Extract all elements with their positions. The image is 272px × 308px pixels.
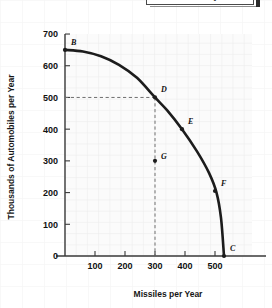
point-label: F: [220, 179, 227, 188]
x-tick-label: 100: [87, 261, 102, 271]
point-marker: [213, 189, 217, 193]
point-marker: [63, 48, 67, 52]
x-axis-title: Missiles per Year: [134, 289, 204, 299]
point-label: D: [160, 85, 167, 94]
x-tick-label: 400: [177, 261, 192, 271]
y-tick-label: 700: [43, 29, 58, 39]
y-tick-label: 400: [43, 125, 58, 135]
x-tick-label: 500: [207, 261, 222, 271]
x-tick-label: 300: [147, 261, 162, 271]
x-tick-label: 200: [117, 261, 132, 271]
top-banner-strip: Economy: [0, 0, 272, 9]
banner-corner-tab: [256, 0, 260, 7]
clipped-title-box: Economy: [146, 0, 254, 5]
point-label: B: [70, 38, 77, 47]
point-label: C: [230, 244, 236, 253]
y-tick-label: 200: [43, 188, 58, 198]
y-tick-label: 600: [43, 61, 58, 71]
point-label: G: [161, 152, 167, 161]
point-marker: [222, 254, 226, 258]
point-marker: [153, 95, 157, 99]
ppf-chart: 1002003004005000100200300400500600700 BD…: [0, 9, 272, 308]
banner-bottom-rule: [150, 6, 256, 7]
clipped-title-text: Economy: [182, 0, 218, 1]
y-tick-label: 100: [43, 220, 58, 230]
point-marker: [180, 127, 184, 131]
chart-canvas: 1002003004005000100200300400500600700 BD…: [0, 9, 272, 308]
y-tick-label: 0: [53, 251, 58, 261]
y-tick-label: 500: [43, 93, 58, 103]
point-marker: [153, 159, 157, 163]
y-axis-title: Thousands of Automobiles per Year: [6, 74, 16, 220]
y-tick-label: 300: [43, 156, 58, 166]
point-label: E: [187, 117, 193, 126]
